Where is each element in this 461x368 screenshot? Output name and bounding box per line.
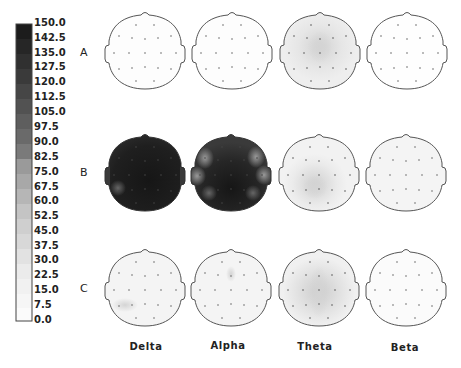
tick-label: 142.5 — [34, 32, 66, 43]
colorbar-ticks: 150.0 142.5 135.0 127.5 120.0 112.5 105.… — [34, 17, 66, 325]
tick-label: 120.0 — [34, 76, 66, 87]
tick-label: 112.5 — [34, 91, 66, 102]
tick-label: 105.0 — [34, 106, 66, 117]
tick-label: 52.5 — [34, 210, 59, 221]
topomap-b-alpha — [188, 135, 273, 212]
row-label-b: B — [80, 166, 88, 179]
tick-label: 37.5 — [34, 240, 59, 251]
tick-label: 90.0 — [34, 136, 59, 147]
tick-label: 75.0 — [34, 166, 59, 177]
topomap-c-beta — [366, 250, 446, 327]
topomap-b-beta — [366, 135, 446, 212]
topomap-a-beta — [367, 13, 447, 90]
topomap-c-delta — [105, 250, 185, 327]
topomap-figure: 150.0 142.5 135.0 127.5 120.0 112.5 105.… — [0, 0, 461, 368]
tick-label: 60.0 — [34, 195, 59, 206]
tick-label: 135.0 — [34, 47, 66, 58]
tick-label: 45.0 — [34, 225, 59, 236]
topomap-b-theta — [279, 135, 359, 212]
row-label-a: A — [80, 46, 88, 59]
tick-label: 30.0 — [34, 254, 59, 265]
tick-label: 67.5 — [34, 181, 59, 192]
column-label-theta: Theta — [297, 341, 332, 352]
tick-label: 82.5 — [34, 151, 59, 162]
topomap-a-alpha — [192, 13, 272, 90]
tick-label: 127.5 — [34, 61, 66, 72]
topomap-c-theta — [279, 250, 359, 327]
tick-label: 7.5 — [34, 299, 52, 310]
tick-label: 97.5 — [34, 121, 59, 132]
topomap-c-alpha — [191, 250, 271, 327]
tick-label: 0.0 — [34, 314, 52, 325]
topomap-a-delta — [105, 13, 185, 90]
row-label-c: C — [80, 282, 88, 295]
topomap-a-theta — [280, 13, 360, 90]
tick-label: 15.0 — [34, 284, 59, 295]
colorbar — [16, 24, 32, 321]
column-label-alpha: Alpha — [210, 340, 245, 351]
topomap-b-delta — [105, 135, 185, 212]
column-label-delta: Delta — [129, 341, 162, 352]
tick-label: 22.5 — [34, 269, 59, 280]
column-label-beta: Beta — [391, 342, 419, 353]
tick-label: 150.0 — [34, 17, 66, 28]
